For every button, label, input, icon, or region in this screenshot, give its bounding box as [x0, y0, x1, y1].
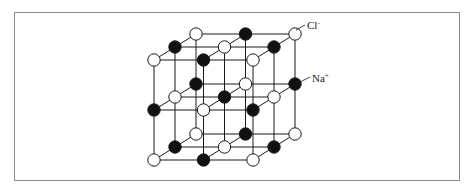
cl-ion-atom	[247, 54, 259, 66]
cl-ion-atom	[289, 128, 301, 140]
na-label: Na+	[312, 72, 329, 84]
na-ion-atom	[239, 28, 251, 40]
cl-ion-atom	[239, 78, 251, 90]
cl-ion-atom	[289, 28, 301, 40]
cl-ion-atom	[190, 128, 202, 140]
cl-ion-atom	[197, 104, 209, 116]
na-ion-atom	[247, 104, 259, 116]
na-ion-atom	[190, 78, 202, 90]
na-ion-atom	[148, 104, 160, 116]
cl-ion-atom	[247, 154, 259, 166]
na-ion-atom	[268, 41, 280, 53]
cl-ion-atom	[148, 154, 160, 166]
cl-ion-atom	[268, 91, 280, 103]
na-ion-atom	[289, 78, 301, 90]
na-ion-atom	[218, 91, 230, 103]
na-ion-atom	[169, 141, 181, 153]
cl-ion-atom	[169, 91, 181, 103]
na-ion-atom	[268, 141, 280, 153]
nacl-lattice-diagram: Cl- Na+	[0, 0, 471, 189]
na-ion-atom	[239, 128, 251, 140]
lattice-atoms	[148, 28, 301, 166]
na-ion-atom	[169, 41, 181, 53]
cl-ion-atom	[218, 41, 230, 53]
cl-ion-atom	[148, 54, 160, 66]
na-ion-atom	[197, 54, 209, 66]
na-ion-atom	[197, 154, 209, 166]
cl-leader-line	[296, 25, 305, 30]
cl-label: Cl-	[307, 19, 320, 31]
cl-ion-atom	[190, 28, 202, 40]
cl-ion-atom	[218, 141, 230, 153]
